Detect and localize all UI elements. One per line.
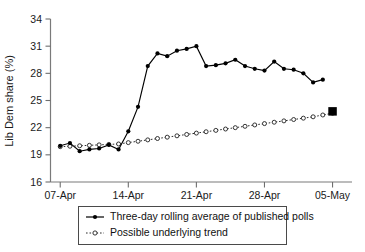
rolling-average-data-point bbox=[87, 147, 91, 151]
y-axis-title: Lib Dem share (%) bbox=[3, 55, 15, 147]
x-tick-label: 28-Apr bbox=[249, 189, 281, 201]
trend-data-point bbox=[243, 124, 247, 128]
trend-data-point bbox=[233, 126, 237, 130]
trend-data-point bbox=[214, 128, 218, 132]
trend-data-point bbox=[224, 127, 228, 131]
rolling-average-data-point bbox=[292, 68, 296, 72]
y-tick-label: 25 bbox=[30, 94, 42, 106]
rolling-average-data-point bbox=[116, 147, 120, 151]
y-tick-label: 34 bbox=[30, 13, 42, 25]
rolling-average-data-point bbox=[146, 64, 150, 68]
rolling-average-data-point bbox=[214, 63, 218, 67]
trend-data-point bbox=[204, 130, 208, 134]
lib-dem-share-line-chart: 16192225283134 Lib Dem share (%) 07-Apr1… bbox=[0, 0, 365, 252]
trend-data-point bbox=[321, 113, 325, 117]
rolling-average-data-point bbox=[272, 59, 276, 63]
rolling-average-data-point bbox=[223, 61, 227, 65]
rolling-average-data-point bbox=[185, 47, 189, 51]
trend-data-point bbox=[87, 143, 91, 147]
trend-data-point bbox=[301, 116, 305, 120]
election-result-marker bbox=[328, 107, 337, 116]
rolling-average-data-point bbox=[262, 69, 266, 73]
trend-data-point bbox=[97, 143, 101, 147]
rolling-average-data-point bbox=[233, 58, 237, 62]
x-tick-label: 07-Apr bbox=[44, 189, 76, 201]
annotations bbox=[328, 107, 337, 116]
trend-data-point bbox=[272, 120, 276, 124]
y-tick-label: 28 bbox=[30, 67, 42, 79]
rolling-average-data-point bbox=[78, 149, 82, 153]
chart-legend: Three-day rolling average of published p… bbox=[79, 207, 314, 245]
trend-data-point bbox=[117, 142, 121, 146]
trend-data-point bbox=[175, 134, 179, 138]
rolling-average-data-point bbox=[282, 67, 286, 71]
x-tick-label: 05-May bbox=[315, 189, 351, 201]
rolling-average-data-point bbox=[165, 54, 169, 58]
y-tick-label: 22 bbox=[30, 121, 42, 133]
rolling-average-data-point bbox=[126, 129, 130, 133]
chart-container: 16192225283134 Lib Dem share (%) 07-Apr1… bbox=[0, 0, 365, 252]
rolling-average-data-point bbox=[194, 44, 198, 48]
trend-data-point bbox=[126, 141, 130, 145]
legend-entry-rolling-average: Three-day rolling average of published p… bbox=[86, 210, 314, 222]
rolling-average-data-point bbox=[107, 143, 111, 147]
rolling-average-data-point bbox=[301, 71, 305, 75]
rolling-average-data-point bbox=[68, 141, 72, 145]
legend-label-rolling-average: Three-day rolling average of published p… bbox=[110, 210, 314, 222]
y-tick-label: 16 bbox=[30, 176, 42, 188]
rolling-average-data-point bbox=[243, 64, 247, 68]
trend-data-point bbox=[185, 132, 189, 136]
y-tick-label: 19 bbox=[30, 148, 42, 160]
trend-data-point bbox=[136, 139, 140, 143]
y-tick-label: 31 bbox=[30, 40, 42, 52]
trend-data-point bbox=[292, 118, 296, 122]
rolling-average-data-point bbox=[204, 64, 208, 68]
rolling-average-data-point bbox=[311, 80, 315, 84]
x-tick-label: 21-Apr bbox=[181, 189, 213, 201]
rolling-average-data-point bbox=[58, 144, 62, 148]
legend-open-circle-icon bbox=[93, 231, 97, 235]
rolling-average-data-point bbox=[253, 67, 257, 71]
trend-data-point bbox=[311, 115, 315, 119]
rolling-average-data-point bbox=[175, 49, 179, 53]
rolling-average-data-point bbox=[155, 51, 159, 55]
rolling-average-data-point bbox=[97, 146, 101, 150]
trend-data-point bbox=[253, 123, 257, 127]
trend-data-point bbox=[282, 119, 286, 123]
trend-data-point bbox=[194, 131, 198, 135]
trend-data-point bbox=[78, 144, 82, 148]
legend-filled-circle-icon bbox=[93, 215, 97, 219]
x-tick-label: 14-Apr bbox=[113, 189, 145, 201]
trend-data-point bbox=[262, 122, 266, 126]
legend-label-trend: Possible underlying trend bbox=[110, 226, 228, 238]
trend-data-point bbox=[155, 137, 159, 141]
trend-data-point bbox=[146, 138, 150, 142]
rolling-average-data-point bbox=[321, 78, 325, 82]
trend-data-point bbox=[165, 135, 169, 139]
rolling-average-data-point bbox=[136, 105, 140, 109]
